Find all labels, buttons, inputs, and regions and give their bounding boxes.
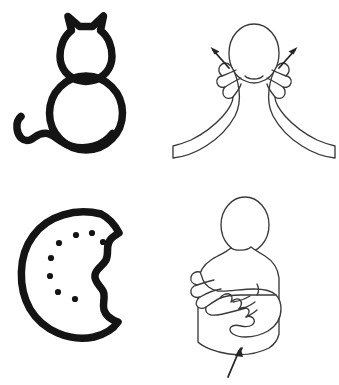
- chip: [55, 289, 61, 295]
- asl-sign-cat: [169, 0, 339, 192]
- chip: [48, 255, 54, 261]
- chip: [100, 239, 106, 245]
- cookie-outline-with-bite: [21, 212, 119, 338]
- cat-tail: [17, 117, 113, 148]
- chip: [73, 232, 79, 238]
- cat-head-and-ears: [60, 16, 112, 81]
- cookie-icon-illustration: [0, 192, 170, 385]
- cookie-sign-drawing: [191, 197, 281, 377]
- asl-sign-cookie: [169, 192, 339, 385]
- left-whisker-arrow: [211, 47, 230, 68]
- chip: [72, 296, 78, 302]
- cat-icon-illustration: [0, 0, 170, 192]
- cat-drawing: [17, 16, 123, 150]
- cookie-drawing: [21, 212, 119, 338]
- chip: [89, 230, 95, 236]
- head-outline: [229, 24, 279, 83]
- asl-cat-svg: [169, 0, 339, 192]
- asl-cookie-svg: [169, 192, 339, 385]
- cat-icon-svg: [0, 0, 170, 192]
- right-whisker-arrow: [279, 47, 298, 68]
- illustration-sheet: [0, 0, 339, 385]
- head-outline: [221, 197, 269, 253]
- cookie-icon-svg: [0, 192, 170, 385]
- cat-sign-drawing: [173, 24, 335, 158]
- left-arm-outline: [173, 63, 239, 158]
- chip: [47, 273, 53, 279]
- right-arm-outline: [269, 63, 335, 158]
- chip: [56, 240, 62, 246]
